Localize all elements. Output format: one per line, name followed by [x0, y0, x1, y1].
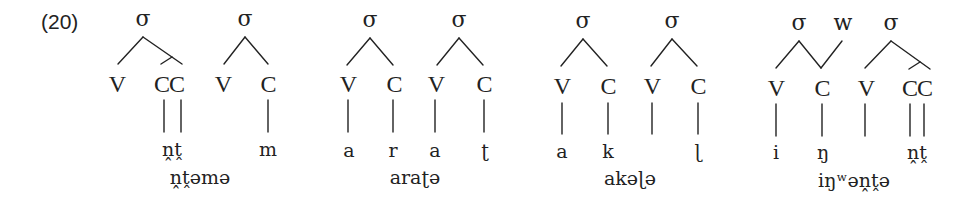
vowel-slot: V	[644, 74, 660, 98]
vowel-slot: V	[858, 76, 874, 100]
segment: ṋṱ	[162, 140, 182, 159]
syllable-node: σ	[664, 10, 679, 32]
vowel-slot: V	[109, 72, 125, 96]
vowel-slot: V	[340, 72, 356, 96]
consonant-slot: C	[600, 74, 615, 98]
vowel-slot: V	[215, 72, 231, 96]
consonant-cluster-slot: CC	[154, 72, 184, 96]
syllable-structure-figure: (20) σ σ V CC V C ṋṱ m ṋṱəmə σ σ V C V C…	[0, 0, 972, 211]
syllable-node: σ	[362, 9, 377, 31]
segment: ṋṱ	[907, 143, 927, 162]
consonant-slot: C	[814, 76, 829, 100]
syllable-node: σ	[575, 10, 590, 32]
consonant-cluster-slot: CC	[902, 76, 932, 100]
syllable-node: σ	[237, 8, 252, 30]
segment: r	[388, 141, 397, 160]
example-number: (20)	[41, 11, 78, 32]
syllable-node: σ	[791, 12, 806, 34]
vowel-slot: V	[554, 74, 570, 98]
labialization-node: w	[834, 12, 853, 34]
consonant-slot: C	[260, 72, 275, 96]
segment: i	[773, 143, 779, 162]
word-form: akəɭə	[604, 169, 656, 188]
consonant-slot: C	[690, 74, 705, 98]
segment: k	[602, 142, 614, 161]
syllable-node: σ	[451, 9, 466, 31]
vowel-slot: V	[428, 72, 444, 96]
word-form: araʈə	[390, 168, 441, 187]
word-form: ṋṱəmə	[170, 168, 230, 187]
segment: a	[556, 142, 567, 161]
segment: ʈ	[481, 141, 489, 160]
segment: a	[343, 141, 354, 160]
segment: m	[259, 140, 277, 159]
word-form: iŋʷəṋṱə	[818, 171, 890, 190]
vowel-slot: V	[768, 76, 784, 100]
consonant-slot: C	[386, 72, 401, 96]
segment: a	[429, 141, 440, 160]
consonant-slot: C	[476, 72, 491, 96]
syllable-node: σ	[883, 12, 898, 34]
segment: ɭ	[695, 142, 702, 161]
segment: ŋ	[817, 143, 829, 162]
syllable-node: σ	[135, 8, 150, 30]
